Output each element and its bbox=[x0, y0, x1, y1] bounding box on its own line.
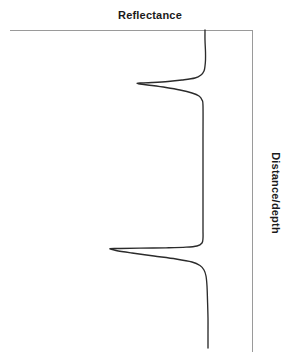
reflectance-trace bbox=[110, 30, 208, 348]
right-axis-label: Distance/depth bbox=[270, 152, 282, 234]
reflectance-depth-figure: Reflectance Distance/depth bbox=[0, 0, 286, 364]
top-axis-label: Reflectance bbox=[118, 9, 182, 21]
